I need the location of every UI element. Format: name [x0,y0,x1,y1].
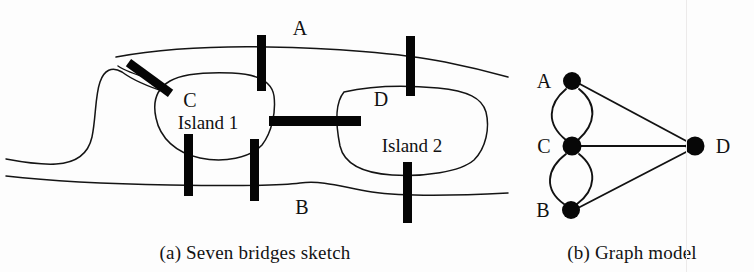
bridge-c-d [269,116,361,126]
panel-seven-bridges-sketch: A B C Island 1 D Island 2 (a) Seven brid… [0,0,510,272]
bridge-d-a [406,36,415,96]
graph-label-c: C [537,135,550,157]
graph-node-c[interactable] [563,137,582,156]
caption-panel-b: (b) Graph model [510,242,754,264]
graph-label-b: B [536,199,549,221]
label-bank-b: B [295,196,308,218]
graph-node-a[interactable] [563,72,581,90]
bridge-c-b-east [250,139,259,201]
caption-panel-a: (a) Seven bridges sketch [0,242,510,264]
edge-c-b-left [550,154,566,204]
graph-svg: A C B D [510,0,754,272]
river-branch-left [6,69,168,164]
graph-node-b[interactable] [562,201,580,219]
edge-a-c-left [552,89,566,140]
edge-a-d [578,83,690,143]
graph-node-d[interactable] [686,137,705,156]
panel-graph-model: A C B D (b) Graph model [510,0,754,272]
scan-seam-line [686,0,687,272]
edge-a-c-right [578,89,592,140]
graph-label-a: A [537,70,552,92]
label-bank-a: A [293,17,308,39]
label-island-1-name: Island 1 [178,112,239,133]
edge-c-b-right [577,154,592,204]
bridge-c-a-east [257,35,266,91]
label-island-1-letter: C [183,89,196,111]
figure-root: A B C Island 1 D Island 2 (a) Seven brid… [0,0,754,272]
edge-b-d [578,150,690,208]
river-bank-top [116,47,508,77]
island-2-outline [337,86,488,175]
sketch-svg: A B C Island 1 D Island 2 [0,0,510,272]
label-island-2-letter: D [374,88,388,110]
label-island-2-name: Island 2 [382,135,443,156]
bridge-d-b [403,162,412,223]
graph-label-d: D [716,135,730,157]
bridge-c-b-west [184,134,193,196]
